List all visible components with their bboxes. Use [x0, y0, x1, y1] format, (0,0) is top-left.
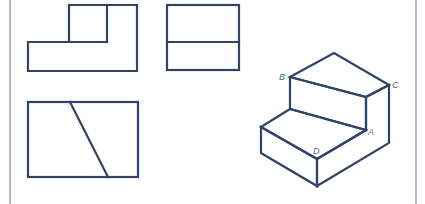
iso-right-face: [317, 85, 389, 186]
front-view-outline: [28, 5, 137, 71]
label-b: B: [279, 72, 285, 82]
top-view-diagonal: [70, 102, 108, 177]
side-view-outline: [167, 5, 239, 70]
label-c: C: [392, 80, 399, 90]
top-view-outline: [28, 102, 138, 177]
label-d: D: [313, 146, 320, 156]
iso-front-left-face: [261, 127, 317, 186]
iso-upper-riser: [290, 77, 366, 130]
top-view: [28, 102, 138, 177]
technical-drawing: B C A D: [0, 0, 425, 204]
label-a: A: [367, 127, 374, 137]
front-view: [28, 5, 137, 71]
isometric-view: B C A D: [261, 53, 399, 186]
side-view: [167, 5, 239, 70]
